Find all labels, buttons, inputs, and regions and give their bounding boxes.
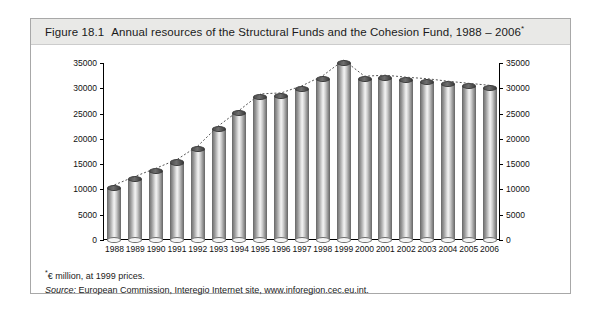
y-tick-label-left-35000: 35000 — [57, 58, 97, 68]
unit-note-text: € million, at 1999 prices. — [48, 271, 145, 281]
figure-number: Figure 18.1 — [45, 26, 104, 38]
y-tick-label-right-20000: 20000 — [506, 134, 546, 144]
x-tick-label-2006: 2006 — [477, 244, 503, 254]
y-tick-label-left-15000: 15000 — [57, 159, 97, 169]
trend-polyline — [114, 60, 489, 185]
y-tick-label-left-30000: 30000 — [57, 83, 97, 93]
y-tick-label-left-0: 0 — [57, 235, 97, 245]
y-tick-label-right-30000: 30000 — [506, 83, 546, 93]
chart-plot-area: 0050005000100001000015000150002000020000… — [74, 59, 529, 259]
y-tick-label-right-25000: 25000 — [506, 109, 546, 119]
y-tick-label-right-5000: 5000 — [506, 210, 546, 220]
y-tick-right-0 — [499, 240, 503, 241]
y-tick-label-left-5000: 5000 — [57, 210, 97, 220]
y-tick-label-right-0: 0 — [506, 235, 546, 245]
source-label: Source: — [45, 285, 76, 295]
y-tick-label-left-20000: 20000 — [57, 134, 97, 144]
figure-container: Figure 18.1Annual resources of the Struc… — [30, 18, 571, 294]
y-tick-left-0 — [100, 240, 104, 241]
figure-title: Figure 18.1Annual resources of the Struc… — [45, 24, 524, 38]
unit-note: *€ million, at 1999 prices. — [45, 268, 369, 284]
y-tick-label-right-10000: 10000 — [506, 184, 546, 194]
title-footnote-marker: * — [521, 24, 524, 33]
source-note: Source: European Commission, Interegio I… — [45, 284, 369, 298]
x-axis-labels: 1988198919901991199219931994199519961997… — [104, 244, 500, 258]
y-tick-label-right-35000: 35000 — [506, 58, 546, 68]
y-tick-label-left-10000: 10000 — [57, 184, 97, 194]
figure-notes: *€ million, at 1999 prices. Source: Euro… — [45, 268, 369, 298]
y-tick-label-right-15000: 15000 — [506, 159, 546, 169]
y-tick-label-left-25000: 25000 — [57, 109, 97, 119]
figure-title-text: Annual resources of the Structural Funds… — [111, 26, 521, 38]
trend-line-overlay — [104, 63, 500, 240]
source-text: European Commission, Interegio Internet … — [79, 285, 369, 295]
